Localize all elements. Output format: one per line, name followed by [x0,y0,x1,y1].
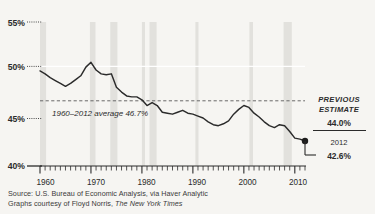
average-annotation-label: 1960–2012 average 46.7% [52,109,148,118]
source-credit-prefix: Graphs courtesy of Floyd Norris, [8,199,115,208]
recession-band [150,22,157,166]
recession-band [284,22,292,166]
recession-band [142,22,145,166]
current-year-label: 2012 [331,138,348,147]
x-axis-label-1990: 1990 [188,178,207,187]
recession-band [90,22,96,166]
y-axis-label-50: 50% [8,62,26,72]
x-axis-label-2010: 2010 [289,178,308,187]
x-axis-label-2000: 2000 [238,178,257,187]
current-value-label: 42.6% [327,151,351,161]
recession-band [195,22,198,166]
y-axis-label-45: 45% [8,114,26,124]
source-publication: The New York Times [115,199,182,208]
recession-band [110,22,117,166]
y-axis-label-40: 40% [8,161,26,171]
recession-band [249,22,253,166]
labor-share-line-chart: 55% 50% 45% 40% 1960–2012 average 46.7% … [0,0,375,214]
x-axis-label-1970: 1970 [87,178,106,187]
x-axis-label-1980: 1980 [137,178,156,187]
previous-estimate-value: 44.0% [327,118,351,128]
y-axis-label-55: 55% [8,18,26,28]
source-line-1: Source: U.S. Bureau of Economic Analysis… [8,189,208,198]
source-line-2: Graphs courtesy of Floyd Norris, The New… [8,199,183,208]
previous-estimate-line2: ESTIMATE [319,105,360,114]
x-axis-label-1960: 1960 [36,178,55,187]
recession-band [40,22,46,166]
previous-estimate-line1: PREVIOUS [318,95,360,104]
